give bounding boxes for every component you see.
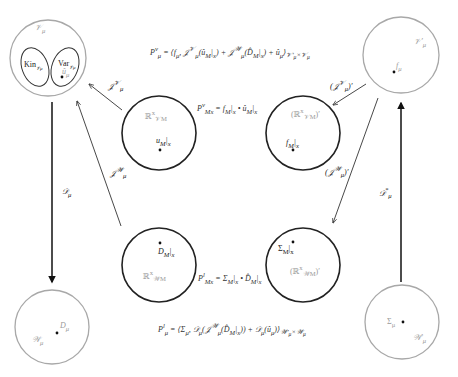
label-R-VM-dual: (ℝx𝒱M)′ [291,108,320,121]
point-f-mu [393,71,396,74]
label-D-M: DM|x [158,248,175,258]
label-arrow-D-mu-star: 𝒟*μ [379,187,392,200]
space-R-VM-circle [122,96,196,170]
equation-middle-top: PvMx = fM|x • ûM|x [197,102,257,115]
label-arrow-F-v-dual: (𝒥𝒱μ)′ [330,80,352,93]
equation-bottom: Plμ = ⟨Σμ, 𝒟μ(𝒥𝒲μ(D̂M|x)) + 𝒟μ(ûμ)⟩𝒲′μ×𝒲… [158,323,306,338]
label-V-mu: 𝒱μ [35,24,45,34]
label-f-M: fM|x [286,139,299,149]
label-arrow-F-w-dual: (𝒥𝒲μ)′ [325,166,348,179]
label-u-M: uM|x [156,137,171,147]
space-V-mu-dual-circle [363,17,439,93]
equation-middle-bottom: PlMx = ΣM|x • D̂M|x [198,272,261,285]
label-arrow-F-v: 𝒥𝒱μ [108,80,123,93]
label-arrow-D-mu: 𝒟μ [62,188,71,198]
point-Sigma-M [292,241,295,244]
label-R-WM: ℝx𝒲M [143,270,166,283]
space-W-mu-circle [15,290,89,364]
label-D-mu: Dμ [60,322,69,332]
label-Sigma-mu: Σμ [387,318,395,328]
space-R-WM-circle [122,228,196,302]
label-R-VM: ℝx𝒱M [145,110,167,123]
label-arrow-F-w: 𝒥𝒲μ [110,167,126,180]
label-f-mu: fμ [396,62,402,72]
arrow-F-w-dual [333,98,378,223]
label-kin: Kin𝒱μ [24,61,43,71]
point-D-mu [56,332,59,335]
point-D-M [159,242,162,245]
arrow-F-w [77,101,121,226]
label-W-mu-dual: 𝒲′μ [413,334,426,344]
label-V-mu-dual: 𝒱′μ [414,38,426,48]
label-Sigma-M: ΣM|x [278,245,294,255]
label-W-mu: 𝒲μ [32,336,43,346]
label-u-mu: ûμ [62,68,69,78]
point-Sigma-mu [402,321,405,324]
point-u-M [159,149,162,152]
equation-top: Pvμ = ⟨fμ, 𝒥𝒱μ(ûM|x) + 𝒥𝒲μ(D̂M|x) + ûμ⟩𝒱… [150,46,310,61]
label-R-WM-dual: (ℝx𝒲M)′ [290,265,320,278]
